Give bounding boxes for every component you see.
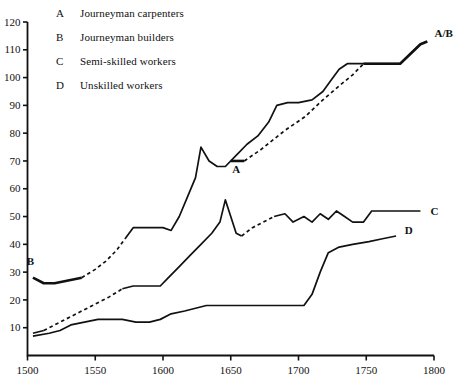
curve-label-c: C	[431, 205, 439, 217]
series-line-c	[44, 289, 123, 331]
legend-label: Journeyman carpenters	[80, 8, 184, 19]
y-tick-label: 40	[10, 238, 22, 250]
y-tick-label: 80	[10, 127, 22, 139]
legend-label: Semi-skilled workers	[80, 56, 176, 67]
legend-label: Unskilled workers	[80, 80, 163, 91]
y-tick-label: 10	[10, 321, 22, 333]
curve-label-a: A	[232, 163, 240, 175]
y-tick-label: 90	[10, 99, 22, 111]
y-tick-label: 30	[10, 266, 22, 278]
x-tick-label: 1750	[355, 364, 378, 376]
series-line-a	[364, 41, 428, 63]
x-tick-label: 1650	[220, 364, 243, 376]
series-line-c	[274, 211, 420, 222]
y-tick-label: 70	[10, 155, 22, 167]
chart-legend: A Journeyman carpenters B Journeyman bui…	[56, 8, 184, 104]
curve-label-d: D	[405, 224, 413, 236]
series-line-c	[122, 200, 241, 289]
y-tick-label: 20	[10, 294, 22, 306]
y-tick-label: 110	[4, 43, 21, 55]
legend-key: B	[56, 32, 80, 43]
x-tick-label: 1800	[423, 364, 446, 376]
x-tick-label: 1550	[84, 364, 107, 376]
series-line-b	[82, 239, 125, 278]
legend-label: Journeyman builders	[80, 32, 174, 43]
legend-key: D	[56, 80, 80, 91]
legend-item: B Journeyman builders	[56, 32, 184, 43]
y-tick-label: 50	[10, 210, 22, 222]
curve-label-a-b: A/B	[435, 27, 454, 39]
legend-item: A Journeyman carpenters	[56, 8, 184, 19]
x-tick-label: 1500	[17, 364, 40, 376]
series-line-c	[242, 217, 275, 236]
curve-label-b: B	[27, 255, 35, 267]
series-line-c	[33, 330, 44, 333]
legend-item: C Semi-skilled workers	[56, 56, 184, 67]
legend-key: C	[56, 56, 80, 67]
legend-key: A	[56, 8, 80, 19]
y-tick-label: 100	[4, 71, 21, 83]
series-line-b	[33, 278, 82, 284]
chart-root: A Journeyman carpenters B Journeyman bui…	[0, 0, 464, 392]
series-line-d	[33, 236, 396, 336]
y-tick-label: 60	[10, 182, 22, 194]
legend-item: D Unskilled workers	[56, 80, 184, 91]
y-tick-label: 120	[4, 16, 21, 28]
x-tick-label: 1700	[288, 364, 311, 376]
x-tick-label: 1600	[152, 364, 175, 376]
series-line-a	[244, 64, 363, 161]
